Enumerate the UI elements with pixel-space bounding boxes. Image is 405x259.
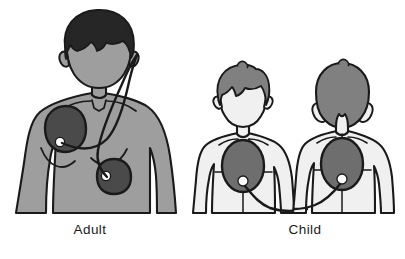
aed-pad-placement-figure: Adult Child: [0, 0, 405, 259]
adult-upper-pad-connector-dot: [55, 137, 64, 146]
child-back-pad-connector-dot: [337, 174, 347, 184]
caption-adult: Adult: [0, 222, 180, 237]
aed-illustration: [0, 0, 405, 259]
child-front-pad-connector-dot: [238, 176, 248, 186]
caption-child: Child: [215, 222, 395, 237]
